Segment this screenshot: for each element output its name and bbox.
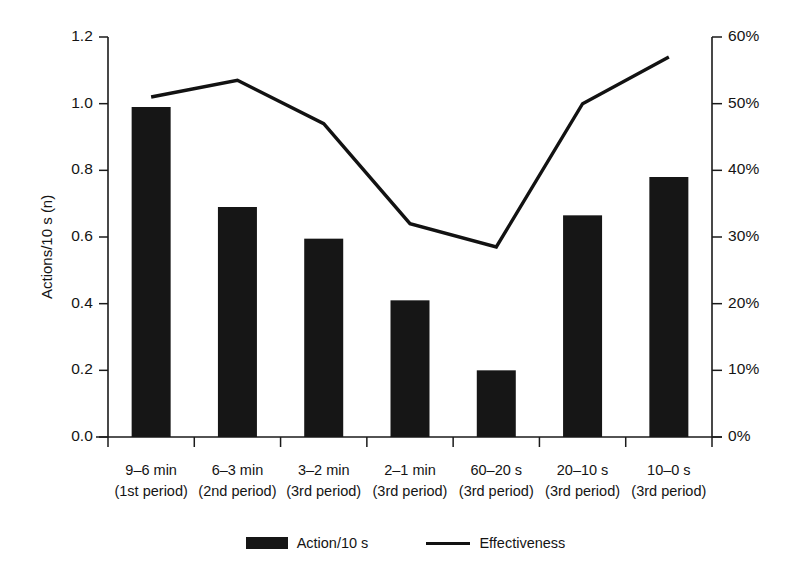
y-axis-tick-label-left: 1.0	[43, 94, 93, 112]
y-axis-tick-label-left: 0.0	[43, 427, 93, 445]
y-axis-tick-label-left: 0.6	[43, 227, 93, 245]
x-axis-category-label: 20–10 s(3rd period)	[539, 460, 625, 502]
x-axis-category-label-line1: 9–6 min	[125, 462, 177, 478]
x-axis-category-label-line1: 10–0 s	[647, 462, 691, 478]
x-axis-category-label: 3–2 min(3rd period)	[281, 460, 367, 502]
bar-swatch-icon	[246, 537, 288, 549]
y-axis-tick-label-left: 0.4	[43, 294, 93, 312]
bar	[391, 300, 430, 437]
x-axis-category-label: 10–0 s(3rd period)	[626, 460, 712, 502]
legend-item-action-per-10s: Action/10 s	[246, 535, 369, 551]
x-axis-category-label-line1: 3–2 min	[298, 462, 350, 478]
y-axis-tick-label-right: 20%	[728, 294, 788, 312]
bar	[304, 239, 343, 437]
bar	[649, 177, 688, 437]
x-axis-category-label-line2: (3rd period)	[367, 481, 453, 502]
chart-legend: Action/10 s Effectiveness	[0, 528, 811, 558]
y-axis-tick-label-right: 60%	[728, 27, 788, 45]
legend-label-effectiveness: Effectiveness	[479, 535, 565, 551]
x-axis-category-label-line2: (3rd period)	[281, 481, 367, 502]
bar	[218, 207, 257, 437]
y-axis-tick-label-left: 0.2	[43, 360, 93, 378]
x-axis-category-label: 2–1 min(3rd period)	[367, 460, 453, 502]
y-axis-tick-label-right: 30%	[728, 227, 788, 245]
x-axis-category-label-line2: (3rd period)	[453, 481, 539, 502]
chart-figure: Actions/10 s (n) 0.00.20.40.60.81.01.20%…	[0, 0, 811, 578]
y-axis-tick-label-right: 50%	[728, 94, 788, 112]
bar	[563, 215, 602, 437]
y-axis-tick-label-left: 1.2	[43, 27, 93, 45]
x-axis-category-label-line2: (2nd period)	[194, 481, 280, 502]
x-axis-category-label-line1: 60–20 s	[470, 462, 522, 478]
bar	[132, 107, 171, 437]
x-axis-category-label-line1: 6–3 min	[212, 462, 264, 478]
legend-item-effectiveness: Effectiveness	[426, 535, 565, 551]
x-axis-category-label: 9–6 min(1st period)	[108, 460, 194, 502]
x-axis-category-label: 6–3 min(2nd period)	[194, 460, 280, 502]
x-axis-category-label-line1: 2–1 min	[384, 462, 436, 478]
bar	[477, 370, 516, 437]
y-axis-tick-label-right: 10%	[728, 360, 788, 378]
y-axis-tick-label-right: 0%	[728, 427, 788, 445]
y-axis-tick-label-right: 40%	[728, 160, 788, 178]
line-swatch-icon	[426, 542, 470, 545]
legend-label-action-per-10s: Action/10 s	[297, 535, 369, 551]
x-axis-category-label: 60–20 s(3rd period)	[453, 460, 539, 502]
y-axis-tick-label-left: 0.8	[43, 160, 93, 178]
x-axis-category-label-line2: (3rd period)	[539, 481, 625, 502]
x-axis-category-label-line2: (3rd period)	[626, 481, 712, 502]
x-axis-category-label-line1: 20–10 s	[557, 462, 609, 478]
bars-series-action-per-10s	[132, 107, 689, 437]
x-axis-category-label-line2: (1st period)	[108, 481, 194, 502]
